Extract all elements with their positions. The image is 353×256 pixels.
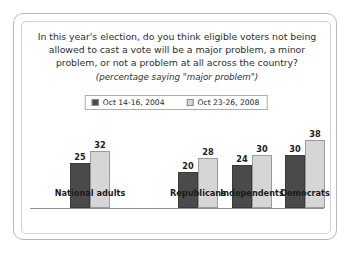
chart-card: In this year's election, do you think el…: [13, 13, 337, 240]
page-title-line-2: allowed to cast a vote will be a major p…: [28, 43, 326, 56]
bar[interactable]: [232, 165, 252, 208]
legend-item-2008: Oct 23-26, 2008: [187, 98, 260, 107]
chart-title-block: In this year's election, do you think el…: [28, 30, 326, 83]
legend-swatch-icon-2004: [92, 99, 99, 106]
bar[interactable]: [70, 163, 90, 208]
bar-value-label: 32: [94, 140, 105, 150]
chart-legend: Oct 14-16, 2004 Oct 23-26, 2008: [85, 95, 268, 110]
page-title-line-3: problem, or not a problem at all across …: [28, 56, 326, 69]
bar[interactable]: [90, 151, 110, 208]
bar-value-label: 30: [289, 144, 300, 154]
x-axis-category-label: National adults: [55, 188, 126, 198]
page-title-line-1: In this year's election, do you think el…: [28, 30, 326, 43]
bar-value-label: 20: [182, 161, 193, 171]
bar-value-label: 38: [309, 129, 320, 139]
x-axis-category-label: Democrats: [280, 188, 330, 198]
chart-plot-area: 2532National adults2028Republicans2430In…: [22, 116, 331, 234]
chart-subtitle: (percentage saying "major problem"): [28, 71, 326, 83]
legend-swatch-icon-2008: [187, 99, 194, 106]
legend-label-2004: Oct 14-16, 2004: [103, 98, 165, 107]
legend-item-2004: Oct 14-16, 2004: [92, 98, 165, 107]
bar-group: 3038Democrats: [265, 116, 331, 208]
bar-group: 2532National adults: [50, 116, 130, 208]
legend-label-2008: Oct 23-26, 2008: [198, 98, 260, 107]
x-axis-line: [30, 208, 324, 209]
bar-value-label: 24: [236, 154, 247, 164]
chart-panel: In this year's election, do you think el…: [21, 21, 331, 234]
bar[interactable]: [285, 155, 305, 208]
bar-value-label: 25: [74, 152, 85, 162]
